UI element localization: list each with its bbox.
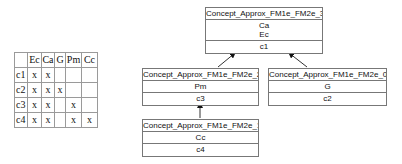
concept-name: Concept_Approx_FM1e_FM2e_1	[143, 120, 258, 132]
concept-name: Concept_Approx_FM1e_FM2e_3	[206, 8, 322, 20]
concept-attributes: Cc	[143, 132, 258, 144]
attribute-label: Pm	[143, 82, 258, 91]
concept-node: Concept_Approx_FM1e_FM2e_2 Pm c3	[142, 68, 259, 106]
concept-node: Concept_Approx_FM1e_FM2e_3 Ca Ec c1	[205, 7, 323, 54]
concept-objects: c2	[269, 93, 386, 105]
concept-attributes: Pm	[143, 81, 258, 93]
attribute-label: Ca	[206, 21, 322, 30]
object-label: c2	[269, 94, 386, 104]
object-label: c1	[206, 42, 322, 52]
concept-name: Concept_Approx_FM1e_FM2e_0	[269, 69, 386, 81]
concept-attributes: G	[269, 81, 386, 93]
attribute-label: Cc	[143, 133, 258, 142]
concept-objects: c1	[206, 41, 322, 53]
concept-attributes: Ca Ec	[206, 20, 322, 41]
edge-arrow	[289, 53, 307, 67]
concept-objects: c4	[143, 144, 258, 156]
edge-arrow	[218, 53, 235, 67]
concept-node: Concept_Approx_FM1e_FM2e_1 Cc c4	[142, 119, 259, 157]
object-label: c4	[143, 145, 258, 155]
concept-name: Concept_Approx_FM1e_FM2e_2	[143, 69, 258, 81]
attribute-label: G	[269, 82, 386, 91]
attribute-label: Ec	[206, 30, 322, 39]
object-label: c3	[143, 94, 258, 104]
concept-objects: c3	[143, 93, 258, 105]
concept-node: Concept_Approx_FM1e_FM2e_0 G c2	[268, 68, 387, 106]
